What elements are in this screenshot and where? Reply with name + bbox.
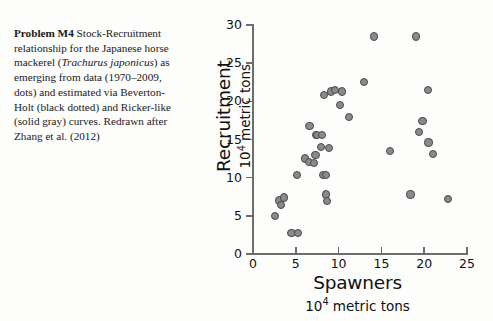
data-point: [336, 101, 344, 109]
x-tick-label: 20: [409, 256, 439, 271]
x-axis-label-units: 104 metric tons: [230, 294, 485, 314]
data-point: [418, 117, 426, 125]
data-point: [406, 190, 414, 198]
data-point: [318, 131, 326, 139]
data-point: [424, 86, 432, 94]
figure-caption: Problem M4 Stock-Recruitment relationshi…: [14, 26, 182, 144]
data-point: [294, 229, 302, 237]
x-axis-label: Spawners 104 metric tons: [230, 272, 485, 314]
data-point: [386, 147, 394, 155]
plot-data-area: [253, 25, 467, 254]
data-point: [280, 193, 288, 201]
x-tick-label: 0: [238, 256, 268, 271]
data-point: [271, 212, 279, 220]
y-tick-mark: [246, 215, 252, 217]
data-point: [370, 32, 378, 40]
data-point: [305, 122, 313, 130]
y-tick-mark: [246, 253, 252, 255]
y-axis-label: Recruitment 104 metric tons: [213, 21, 254, 211]
data-point: [317, 143, 325, 151]
data-point: [277, 201, 285, 209]
y-axis-label-units: 104 metric tons: [234, 21, 254, 211]
data-point: [412, 32, 420, 40]
x-tick-label: 5: [281, 256, 311, 271]
data-point: [415, 128, 423, 136]
data-point: [310, 159, 318, 167]
figure-page: Problem M4 Stock-Recruitment relationshi…: [0, 0, 493, 321]
data-point: [424, 138, 432, 146]
scatter-chart: 051015202530 0510152025 Recruitment 104 …: [190, 0, 493, 321]
data-point: [345, 113, 353, 121]
x-tick-label: 15: [366, 256, 396, 271]
y-axis-label-main: Recruitment: [213, 21, 234, 211]
data-point: [338, 87, 346, 95]
caption-body-part-2: ) as emerging from data (1970–2009, dots…: [14, 56, 171, 142]
x-axis-label-main: Spawners: [230, 272, 485, 294]
data-point: [429, 150, 437, 158]
data-point: [311, 151, 319, 159]
caption-problem-label: Problem M4: [14, 27, 74, 39]
data-point: [293, 171, 301, 179]
data-point: [323, 197, 331, 205]
caption-species-name: Trachurus japonicus: [62, 56, 154, 68]
x-tick-label: 10: [324, 256, 354, 271]
x-tick-label: 25: [452, 256, 482, 271]
data-point: [325, 144, 333, 152]
data-point: [322, 171, 330, 179]
data-point: [360, 78, 368, 86]
data-point: [444, 195, 452, 203]
